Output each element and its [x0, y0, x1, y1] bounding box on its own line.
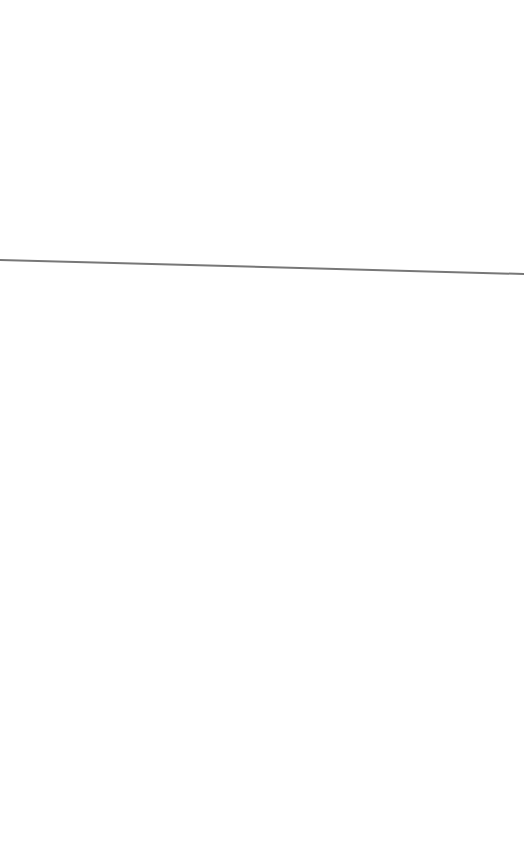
slanted-divider-line: [0, 0, 524, 861]
blank-page: [0, 0, 524, 861]
